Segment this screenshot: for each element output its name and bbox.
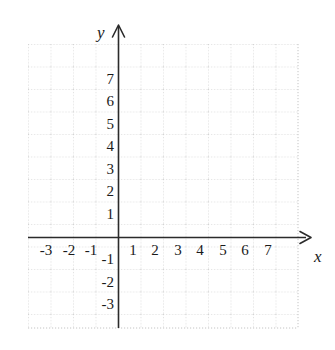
grid-lines xyxy=(28,44,298,328)
x-tick-label--3: -3 xyxy=(40,243,53,258)
grid-area xyxy=(28,44,298,328)
y-tick-label--2: -2 xyxy=(98,275,114,290)
x-tick-label-2: 2 xyxy=(151,243,159,258)
y-tick-label--3: -3 xyxy=(98,297,114,312)
x-tick-label--1: -1 xyxy=(85,243,98,258)
x-tick-label-7: 7 xyxy=(264,243,272,258)
y-tick-label-2: 2 xyxy=(98,184,114,199)
y-tick-label-5: 5 xyxy=(98,117,114,132)
coordinate-plane-figure: x y -3 -2 -1 1 2 3 4 5 6 7 7 6 5 4 3 2 1… xyxy=(0,0,335,350)
y-tick-label-7: 7 xyxy=(98,72,114,87)
x-tick-label-4: 4 xyxy=(196,243,204,258)
x-tick-label-3: 3 xyxy=(174,243,182,258)
x-tick-label-6: 6 xyxy=(241,243,249,258)
y-tick-label-3: 3 xyxy=(98,162,114,177)
y-tick-label-4: 4 xyxy=(98,139,114,154)
x-axis-name-label: x xyxy=(314,248,322,265)
y-tick-label-6: 6 xyxy=(98,94,114,109)
x-tick-label-1: 1 xyxy=(129,243,137,258)
x-tick-label--2: -2 xyxy=(63,243,76,258)
y-tick-label--1: -1 xyxy=(98,252,114,267)
coordinate-grid-svg xyxy=(0,0,335,350)
x-tick-label-5: 5 xyxy=(219,243,227,258)
y-tick-label-1: 1 xyxy=(98,207,114,222)
y-axis-name-label: y xyxy=(97,24,105,41)
